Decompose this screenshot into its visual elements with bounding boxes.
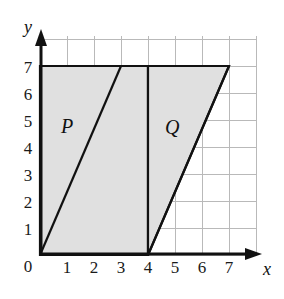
x-axis-label: x bbox=[263, 260, 271, 278]
y-tick-label-3: 3 bbox=[21, 167, 35, 184]
y-tick-label-5: 5 bbox=[21, 113, 35, 130]
x-tick-label-3: 3 bbox=[114, 259, 128, 276]
y-tick-label-6: 6 bbox=[21, 86, 35, 103]
coordinate-plot bbox=[0, 0, 284, 299]
y-tick-label-4: 4 bbox=[21, 140, 35, 157]
x-tick-label-1: 1 bbox=[60, 259, 74, 276]
region-label-p: P bbox=[61, 116, 73, 136]
y-axis-label: y bbox=[24, 18, 32, 36]
y-tick-label-7: 7 bbox=[21, 59, 35, 76]
y-tick-label-2: 2 bbox=[21, 194, 35, 211]
x-tick-label-5: 5 bbox=[168, 259, 182, 276]
x-tick-label-4: 4 bbox=[141, 259, 155, 276]
x-tick-label-7: 7 bbox=[222, 259, 236, 276]
region-p-shape bbox=[40, 66, 148, 255]
origin-tick-label: 0 bbox=[21, 258, 35, 275]
x-tick-label-6: 6 bbox=[195, 259, 209, 276]
y-tick-label-1: 1 bbox=[21, 221, 35, 238]
region-label-q: Q bbox=[165, 117, 179, 137]
figure-canvas: y x 0 1 2 3 4 5 6 7 1 2 3 4 5 6 7 P Q bbox=[0, 0, 284, 299]
x-tick-label-2: 2 bbox=[87, 259, 101, 276]
